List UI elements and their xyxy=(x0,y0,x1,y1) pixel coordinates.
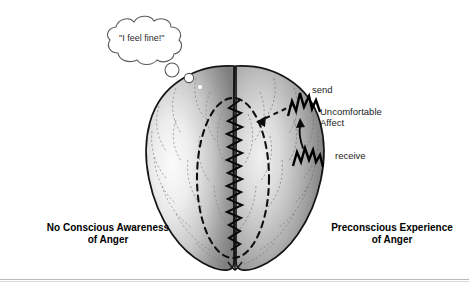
right-hemisphere xyxy=(236,66,324,270)
label-receive: receive xyxy=(335,150,366,161)
label-left-line1: No Conscious Awareness xyxy=(18,222,198,234)
label-preconscious-experience: Preconscious Experience of Anger xyxy=(318,222,466,246)
small-white-dot xyxy=(197,84,202,89)
label-no-conscious-awareness: No Conscious Awareness of Anger xyxy=(18,222,198,246)
label-right-line2: of Anger xyxy=(318,234,466,246)
figure-bottom-rule-shadow xyxy=(0,281,469,282)
thought-bubble-circle-large xyxy=(165,63,179,77)
label-left-line2: of Anger xyxy=(18,234,198,246)
thought-bubble xyxy=(108,16,194,82)
thought-bubble-text: "I feel fine!" xyxy=(119,33,164,44)
label-uncomfortable-line2: Affect xyxy=(320,117,382,128)
label-send: send xyxy=(312,84,333,95)
brain-diagram-svg xyxy=(0,0,469,291)
thought-bubble-circle-small xyxy=(184,73,193,82)
label-uncomfortable-affect: Uncomfortable Affect xyxy=(320,106,382,128)
label-right-line1: Preconscious Experience xyxy=(318,222,466,234)
label-uncomfortable-line1: Uncomfortable xyxy=(320,106,382,117)
figure-canvas: "I feel fine!" send Uncomfortable Affect… xyxy=(0,0,469,291)
figure-bottom-rule xyxy=(0,279,469,280)
